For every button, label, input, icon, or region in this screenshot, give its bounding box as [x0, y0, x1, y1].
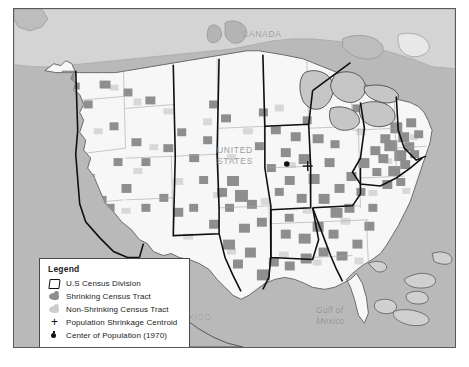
legend-title: Legend: [48, 264, 183, 274]
legend-item-non-shrinking-tract: Non-Shrinking Census Tract: [47, 303, 183, 315]
shrinking-tract-swatch-icon: [47, 291, 62, 302]
plus-marker-icon: +: [47, 317, 62, 328]
non-shrinking-tract-swatch-icon: [47, 304, 62, 315]
center-of-population-1970-marker: [284, 161, 290, 167]
census-division-outline-icon: [47, 278, 62, 289]
legend-item-census-division: U.S Census Division: [47, 277, 183, 289]
legend-item-shrinking-tract: Shrinking Census Tract: [47, 290, 183, 302]
legend-item-center-of-population: Center of Population (1970): [47, 329, 183, 341]
legend-item-label: Center of Population (1970): [66, 331, 167, 340]
legend-item-label: Non-Shrinking Census Tract: [66, 305, 169, 314]
map-figure: CANADA UNITED STATES MEXICO Gulf of Mexi…: [13, 8, 456, 348]
legend-item-shrinkage-centroid: + Population Shrinkage Centroid: [47, 316, 183, 328]
map-legend: Legend U.S Census Division Shrinking Cen…: [39, 258, 190, 348]
dot-marker-icon: [47, 330, 62, 341]
legend-item-label: Shrinking Census Tract: [66, 292, 151, 301]
legend-item-label: Population Shrinkage Centroid: [66, 318, 177, 327]
legend-item-label: U.S Census Division: [66, 279, 141, 288]
